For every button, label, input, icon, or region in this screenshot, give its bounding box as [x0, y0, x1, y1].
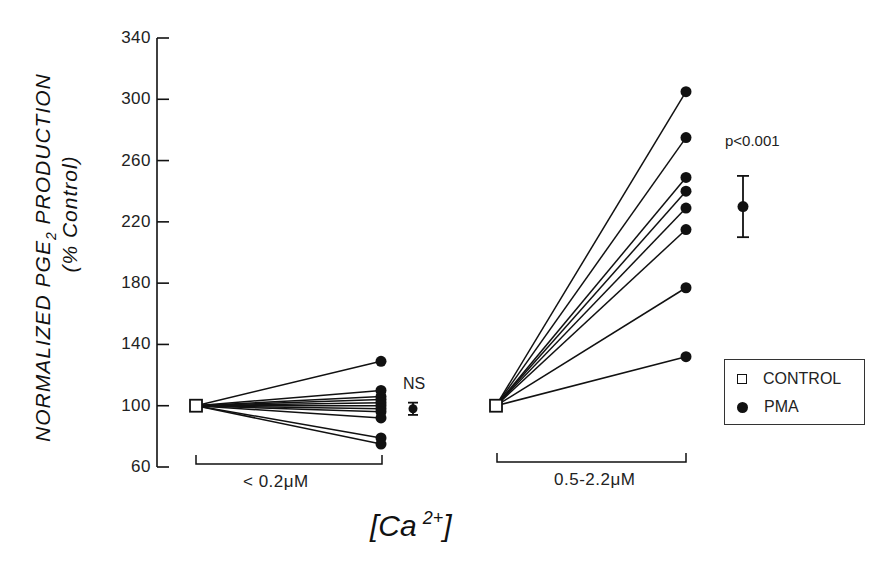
- y-tick-label: 140: [101, 334, 151, 354]
- group-label-high-calcium: 0.5-2.2μM: [554, 470, 635, 490]
- paired-line: [196, 361, 381, 405]
- paired-line: [496, 288, 686, 406]
- pma-point: [681, 224, 692, 235]
- paired-line: [496, 357, 686, 406]
- legend-label-pma: PMA: [764, 398, 799, 416]
- pma-point: [681, 186, 692, 197]
- y-axis-subtitle: (% Control): [58, 114, 82, 314]
- pma-point: [681, 282, 692, 293]
- legend: CONTROL PMA: [724, 359, 865, 425]
- y-tick-label: 180: [101, 273, 151, 293]
- pma-point: [681, 203, 692, 214]
- p-value-annotation: p<0.001: [725, 132, 780, 149]
- control-point: [490, 400, 502, 412]
- pma-point: [681, 86, 692, 97]
- pma-point: [681, 172, 692, 183]
- y-axis-title: NORMALIZED PGE2 PRODUCTION: [31, 48, 58, 468]
- y-tick-label: 300: [101, 89, 151, 109]
- pma-point: [376, 412, 387, 423]
- control-point: [190, 400, 202, 412]
- y-tick-label: 340: [101, 28, 151, 48]
- pma-point: [681, 351, 692, 362]
- legend-item-control: CONTROL: [737, 370, 841, 388]
- mean-point: [409, 404, 418, 413]
- paired-line: [496, 191, 686, 406]
- filled-circle-icon: [737, 402, 748, 413]
- paired-line: [496, 138, 686, 406]
- group-bracket: [196, 455, 382, 464]
- open-square-icon: [737, 374, 747, 384]
- legend-label-control: CONTROL: [763, 370, 841, 388]
- paired-line: [496, 92, 686, 406]
- ns-annotation: NS: [403, 375, 425, 393]
- y-tick-label: 220: [101, 212, 151, 232]
- pma-point: [376, 439, 387, 450]
- y-tick-label: 60: [101, 457, 151, 477]
- group-label-low-calcium: < 0.2μM: [243, 472, 309, 492]
- pma-point: [681, 132, 692, 143]
- paired-line: [496, 208, 686, 406]
- x-axis-title: [Ca2+]: [370, 508, 452, 543]
- group-bracket: [497, 453, 686, 462]
- y-tick-label: 260: [101, 151, 151, 171]
- paired-line: [496, 230, 686, 406]
- legend-item-pma: PMA: [737, 398, 799, 416]
- pma-point: [376, 356, 387, 367]
- y-tick-label: 100: [101, 396, 151, 416]
- mean-point: [738, 201, 749, 212]
- paired-line: [496, 177, 686, 405]
